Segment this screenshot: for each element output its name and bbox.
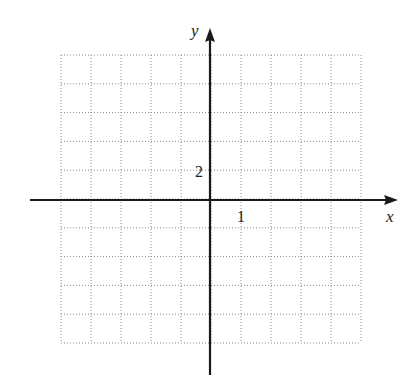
y-tick-label-2: 2 bbox=[195, 163, 203, 180]
y-axis-arrow-icon bbox=[205, 28, 215, 42]
x-axis-arrow-icon bbox=[384, 195, 398, 205]
x-axis-label: x bbox=[385, 207, 394, 226]
x-tick-label-1: 1 bbox=[237, 208, 245, 225]
y-axis-label: y bbox=[189, 21, 199, 40]
coordinate-plane: x y 1 2 bbox=[0, 0, 420, 392]
